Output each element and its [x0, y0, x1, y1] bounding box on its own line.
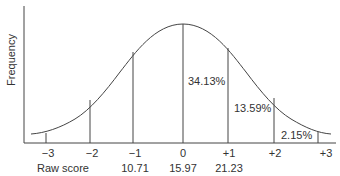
raw-score-label: Raw score: [37, 162, 89, 174]
tick-0: 0: [180, 147, 186, 159]
region-label-1: 34.13%: [188, 75, 226, 87]
tick-m1: −1: [129, 147, 142, 159]
y-axis-label: Frequency: [5, 34, 17, 86]
bell-curve: [31, 24, 331, 134]
tick-m2: −2: [86, 147, 99, 159]
region-label-2: 13.59%: [234, 102, 272, 114]
raw-score-m1: 10.71: [121, 162, 149, 174]
tick-m3: −3: [42, 147, 55, 159]
raw-score-p1: 21.23: [215, 162, 243, 174]
tick-p3: +3: [320, 147, 333, 159]
normal-distribution-chart: Frequency 34.13% 13.59% 2.15% −3 −2 −1 0…: [0, 0, 340, 176]
region-label-3: 2.15%: [281, 129, 312, 141]
tick-p1: +1: [223, 147, 236, 159]
tick-p2: +2: [269, 147, 282, 159]
raw-score-0: 15.97: [169, 162, 197, 174]
